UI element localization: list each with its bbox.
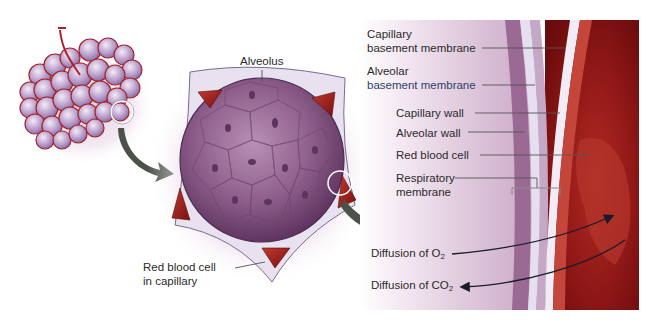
- diffusion-co2-text: Diffusion of CO: [371, 279, 449, 291]
- label-respiratory-1: Respiratory: [396, 172, 455, 185]
- label-rbc-capillary-1: Red blood cell: [143, 261, 216, 274]
- label-capillary-basement-1: Capillary: [367, 28, 412, 41]
- label-rbc-capillary-2: in capillary: [143, 275, 197, 288]
- respiratory-membrane-closeup: [360, 20, 639, 310]
- alveolar-sac-cluster: [15, 28, 155, 165]
- label-diffusion-o2: Diffusion of O2: [371, 247, 445, 263]
- label-respiratory-2: membrane: [396, 186, 451, 199]
- label-capillary-wall: Capillary wall: [396, 107, 464, 120]
- alveolus-cross-section: [147, 55, 377, 285]
- label-alveolus: Alveolus: [240, 55, 283, 68]
- diagram-canvas: [0, 0, 661, 326]
- label-red-blood-cell: Red blood cell: [396, 149, 469, 162]
- diffusion-co2-subscript: 2: [449, 284, 453, 293]
- diffusion-o2-text: Diffusion of O: [371, 247, 440, 259]
- respiratory-diagram: Alveolus Red blood cell in capillary Cap…: [0, 0, 661, 326]
- label-capillary-basement-2: basement membrane: [367, 42, 476, 55]
- label-alveolar-basement-1: Alveolar: [367, 65, 409, 78]
- label-alveolar-wall: Alveolar wall: [396, 127, 461, 140]
- label-diffusion-co2: Diffusion of CO2: [371, 279, 453, 295]
- label-alveolar-basement-2: basement membrane: [367, 79, 476, 92]
- diffusion-o2-subscript: 2: [440, 252, 444, 261]
